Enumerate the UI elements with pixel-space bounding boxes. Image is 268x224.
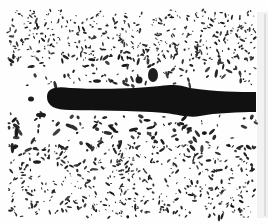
particle bbox=[102, 33, 106, 35]
large-particle bbox=[136, 77, 143, 84]
particle bbox=[92, 73, 96, 75]
particle bbox=[98, 28, 102, 30]
large-particle bbox=[148, 68, 158, 82]
particle bbox=[139, 30, 141, 33]
large-particle bbox=[33, 160, 41, 164]
particle bbox=[247, 14, 249, 16]
micrograph-svg bbox=[0, 0, 268, 224]
particle bbox=[107, 192, 109, 193]
large-particle bbox=[36, 113, 46, 117]
large-particle bbox=[28, 97, 34, 102]
side-strip bbox=[257, 12, 268, 218]
micrograph-image bbox=[0, 0, 268, 224]
particle bbox=[88, 54, 90, 55]
particle bbox=[210, 59, 212, 60]
large-particle bbox=[93, 79, 101, 83]
